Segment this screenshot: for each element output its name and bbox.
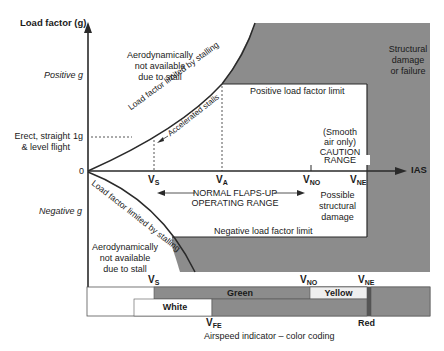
bar-caption: Airspeed indicator – color coding	[204, 331, 335, 341]
x-axis-label: IAS	[411, 165, 427, 175]
caution-2: air only)	[310, 137, 370, 147]
structural-damage-3: or failure	[378, 66, 438, 76]
possible-damage-1: Possible	[310, 190, 365, 200]
possible-damage-3: damage	[310, 212, 365, 222]
vno-label: VNO	[303, 175, 320, 188]
aero-na-bottom-1: Aerodynamically	[90, 242, 160, 252]
vs-label: VS	[148, 175, 159, 188]
bar-vno-label: VNO	[300, 275, 317, 288]
possible-damage-2: structural	[310, 201, 365, 211]
red-mark-label: Red	[358, 318, 375, 328]
caution-1: (Smooth	[310, 127, 370, 137]
positive-g-label: Positive g	[44, 70, 83, 80]
yellow-band-label: Yellow	[310, 288, 367, 298]
positive-limit-label: Positive load factor limit	[250, 86, 345, 96]
one-g-label: 1g	[73, 131, 83, 141]
normal-range-1: NORMAL FLAPS-UP	[190, 188, 280, 198]
aero-na-bottom-3: due to stall	[90, 264, 160, 274]
caution-4: RANGE	[310, 155, 370, 165]
y-axis-title: Load factor (g)	[20, 18, 87, 28]
erect-flight-label-2: & level flight	[2, 142, 70, 152]
normal-range-2: OPERATING RANGE	[190, 198, 280, 208]
erect-flight-label-1: Erect, straight	[2, 131, 70, 141]
aero-na-bottom-2: not available	[90, 253, 160, 263]
zero-label: 0	[79, 166, 84, 176]
negative-limit-label: Negative load factor limit	[214, 226, 313, 236]
structural-damage-2: damage	[378, 55, 438, 65]
va-label: VA	[216, 175, 228, 188]
green-band-label: Green	[210, 288, 270, 298]
structural-damage-1: Structural	[378, 44, 438, 54]
bar-vfe-label: VFE	[206, 318, 222, 331]
vne-label: VNE	[350, 175, 366, 188]
bar-vs-label: VS	[148, 275, 159, 288]
negative-g-label: Negative g	[39, 206, 82, 216]
white-band-label: White	[140, 302, 210, 312]
bar-vne-label: VNE	[358, 275, 374, 288]
